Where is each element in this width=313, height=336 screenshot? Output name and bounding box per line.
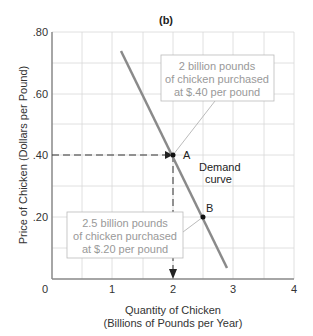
x-axis-title-1: Quantity of Chicken xyxy=(125,304,221,316)
y-tick-20: .20 xyxy=(33,211,48,223)
point-a-label: A xyxy=(183,149,191,161)
x-tick-3: 3 xyxy=(230,283,236,295)
box-b-line3: at $.20 per pound xyxy=(82,243,168,255)
point-b xyxy=(201,215,206,220)
box-b-line2: of chicken purchased xyxy=(73,230,177,242)
demand-chart: 2 billion pounds of chicken purchased at… xyxy=(0,0,313,336)
x-tick-4: 4 xyxy=(291,283,297,295)
y-axis-title: Price of Chicken (Dollars per Pound) xyxy=(17,66,29,245)
box-a-line2: of chicken purchased xyxy=(165,73,269,85)
x-tick-1: 1 xyxy=(109,283,115,295)
leader-a xyxy=(173,101,215,155)
point-a xyxy=(171,153,176,158)
arrow-down-icon xyxy=(169,269,177,279)
demand-label-2: curve xyxy=(205,173,232,185)
panel-title: (b) xyxy=(159,14,173,26)
y-tick-40: .40 xyxy=(33,149,48,161)
box-a-line1: 2 billion pounds xyxy=(179,60,256,72)
x-tick-0: 0 xyxy=(42,283,48,295)
y-tick-80: .80 xyxy=(33,26,48,38)
leader-b xyxy=(183,217,203,232)
box-a-line3: at $.40 per pound xyxy=(174,86,260,98)
x-tick-2: 2 xyxy=(170,283,176,295)
point-b-label: B xyxy=(206,202,213,214)
y-tick-60: .60 xyxy=(33,88,48,100)
x-axis-title-2: (Billions of Pounds per Year) xyxy=(104,317,243,329)
demand-label-1: Demand xyxy=(199,161,241,173)
box-b-line1: 2.5 billion pounds xyxy=(82,217,168,229)
